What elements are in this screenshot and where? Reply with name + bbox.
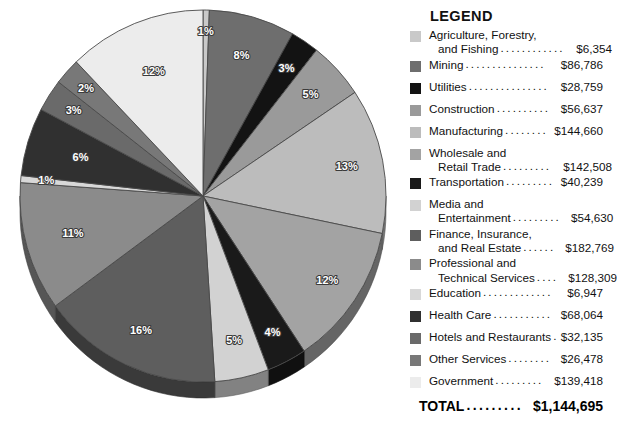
legend-item-value: $40,239 bbox=[561, 175, 603, 189]
legend-item-text: Construction..........$56,637 bbox=[429, 102, 603, 116]
legend-item-leader: Utilities...............$28,759 bbox=[429, 80, 603, 94]
legend-item-value: $6,354 bbox=[576, 42, 612, 56]
legend-leader-dots: ......... bbox=[506, 174, 560, 188]
legend-leader-dots: ........ bbox=[508, 351, 559, 365]
legend-leader-dots: ......... bbox=[513, 210, 570, 224]
legend-item-value: $182,769 bbox=[565, 241, 614, 255]
legend-item-name: Construction bbox=[429, 102, 495, 116]
pie-percent-label: 5% bbox=[226, 334, 242, 346]
legend-item-name: Mining bbox=[429, 58, 463, 72]
pie-percent-label: 3% bbox=[279, 62, 295, 74]
legend-item-leader: Technical Services....$128,309 bbox=[429, 271, 617, 285]
legend-swatch bbox=[410, 31, 421, 42]
pie-percent-label: 13% bbox=[336, 160, 358, 172]
legend-swatch bbox=[410, 259, 421, 270]
legend-swatch bbox=[410, 230, 421, 241]
legend-item-name: Hotels and Restaurants bbox=[429, 330, 551, 344]
pie-percent-label: 8% bbox=[234, 49, 250, 61]
legend-item-text: Government.........$139,418 bbox=[429, 374, 603, 388]
legend-item-leader: Construction..........$56,637 bbox=[429, 102, 603, 116]
legend-item-text: Hotels and Restaurants.$32,135 bbox=[429, 330, 603, 344]
pie-percent-label: 2% bbox=[78, 82, 94, 94]
legend-total-dots: ......... bbox=[466, 397, 532, 413]
legend-item-name-line1: Finance, Insurance, bbox=[429, 227, 605, 241]
pie-percent-label: 4% bbox=[265, 326, 281, 338]
legend-swatch bbox=[410, 289, 421, 300]
legend-item-value: $56,637 bbox=[561, 102, 603, 116]
legend-leader-dots: ........ bbox=[505, 123, 553, 137]
pie-percent-label: 11% bbox=[62, 227, 84, 239]
legend-item: Education.............$6,947 bbox=[409, 286, 603, 307]
legend-item-text: Agriculture, Forestry,and Fishing.......… bbox=[429, 28, 603, 57]
legend-item-name-line1: Wholesale and bbox=[429, 146, 603, 160]
legend-item-name: Transportation bbox=[429, 175, 504, 189]
legend-leader-dots: ......... bbox=[495, 373, 553, 387]
legend-item-text: Education.............$6,947 bbox=[429, 286, 603, 300]
legend-item-value: $28,759 bbox=[561, 80, 603, 94]
legend-item-text: Professional andTechnical Services....$1… bbox=[429, 256, 608, 285]
legend-item-text: Transportation.........$40,239 bbox=[429, 175, 603, 189]
legend-item-name-line2: and Real Estate bbox=[438, 241, 521, 255]
legend-item: Wholesale andRetail Trade.........$142,5… bbox=[409, 146, 603, 175]
legend-item: Finance, Insurance,and Real Estate......… bbox=[409, 227, 603, 256]
legend-item: Media andEntertainment.........$54,630 bbox=[409, 197, 603, 226]
legend-item-leader: Manufacturing........$144,660 bbox=[429, 124, 603, 138]
legend-swatch bbox=[410, 333, 421, 344]
legend-item-name: Utilities bbox=[429, 80, 467, 94]
legend-item-text: Wholesale andRetail Trade.........$142,5… bbox=[429, 146, 603, 175]
legend-total-row: TOTAL ......... $1,144,695 bbox=[419, 398, 603, 414]
legend-leader-dots: ............... bbox=[465, 57, 559, 71]
legend-item-text: Manufacturing........$144,660 bbox=[429, 124, 603, 138]
pie-percent-label: 5% bbox=[303, 88, 319, 100]
legend-item-leader: Retail Trade.........$142,508 bbox=[429, 160, 612, 174]
legend-total-value: $1,144,695 bbox=[533, 398, 603, 414]
legend-item: Manufacturing........$144,660 bbox=[409, 124, 603, 145]
legend-item-name: Education bbox=[429, 286, 481, 300]
legend-item-name: Other Services bbox=[429, 352, 506, 366]
legend-item-leader: Education.............$6,947 bbox=[429, 286, 603, 300]
legend-leader-dots: ............... bbox=[469, 79, 560, 93]
legend-item-leader: and Fishing............$6,354 bbox=[429, 42, 612, 56]
legend-total-label: TOTAL bbox=[419, 398, 464, 414]
legend-item-value: $32,135 bbox=[561, 330, 603, 344]
legend-item-value: $142,508 bbox=[563, 160, 612, 174]
legend-leader-dots: ........... bbox=[493, 307, 559, 321]
legend-item-value: $54,630 bbox=[571, 211, 613, 225]
legend-leader-dots: . bbox=[553, 329, 560, 343]
pie-percent-label: 12% bbox=[143, 65, 165, 77]
pie-chart-svg: 1%8%3%5%13%12%4%5%16%11%1%6%3%2%12% bbox=[0, 0, 400, 424]
legend-item-leader: and Real Estate......$182,769 bbox=[429, 241, 614, 255]
legend-item-leader: Other Services........$26,478 bbox=[429, 352, 603, 366]
legend-item-text: Other Services........$26,478 bbox=[429, 352, 603, 366]
pie-chart: 1%8%3%5%13%12%4%5%16%11%1%6%3%2%12% bbox=[0, 0, 400, 424]
legend-item-value: $139,418 bbox=[554, 374, 603, 388]
legend-item: Mining...............$86,786 bbox=[409, 58, 603, 79]
legend-panel: LEGEND Agriculture, Forestry,and Fishing… bbox=[409, 0, 603, 424]
legend-item-leader: Health Care...........$68,064 bbox=[429, 308, 603, 322]
legend-item-name-line2: Entertainment bbox=[438, 211, 511, 225]
legend-item-leader: Hotels and Restaurants.$32,135 bbox=[429, 330, 603, 344]
legend-item-value: $128,309 bbox=[568, 271, 617, 285]
legend-leader-dots: ............ bbox=[500, 41, 575, 55]
legend-item: Other Services........$26,478 bbox=[409, 352, 603, 373]
legend-item-name: Manufacturing bbox=[429, 124, 503, 138]
legend-item: Construction..........$56,637 bbox=[409, 102, 603, 123]
legend-leader-dots: .... bbox=[537, 270, 567, 284]
pie-percent-label: 6% bbox=[73, 151, 89, 163]
legend-swatch bbox=[410, 377, 421, 388]
legend-item: Transportation.........$40,239 bbox=[409, 175, 603, 196]
legend-item-name-line2: Retail Trade bbox=[438, 160, 501, 174]
legend-item: Utilities...............$28,759 bbox=[409, 80, 603, 101]
legend-item-text: Mining...............$86,786 bbox=[429, 58, 603, 72]
legend-swatch bbox=[410, 311, 421, 322]
legend-swatch bbox=[410, 200, 421, 211]
pie-percent-label: 1% bbox=[198, 25, 214, 37]
legend-swatch bbox=[410, 355, 421, 366]
pie-percent-label: 3% bbox=[66, 104, 82, 116]
legend-item-leader: Mining...............$86,786 bbox=[429, 58, 603, 72]
legend-item-name-line1: Agriculture, Forestry, bbox=[429, 28, 603, 42]
legend-item-value: $86,786 bbox=[561, 58, 603, 72]
legend-item: Professional andTechnical Services....$1… bbox=[409, 256, 603, 285]
pie-percent-label: 1% bbox=[38, 174, 54, 186]
legend-swatch bbox=[410, 83, 421, 94]
